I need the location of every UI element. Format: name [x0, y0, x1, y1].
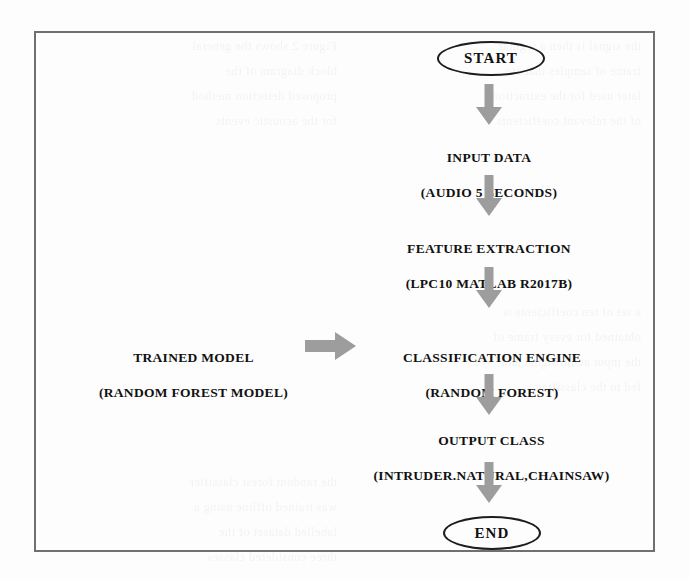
arrow-feature-to-classification: [475, 267, 503, 309]
arrow-input-to-feature: [475, 175, 503, 217]
node-start-label: START: [464, 50, 518, 67]
arrow-start-to-input: [475, 84, 503, 126]
node-classification-engine-line1: CLASSIFICATION ENGINE: [358, 349, 626, 367]
node-output-class-line1: OUTPUT CLASS: [339, 432, 644, 450]
node-trained-model: TRAINED MODEL (RANDOM FOREST MODEL): [86, 331, 301, 420]
arrow-output-to-end: [475, 462, 503, 504]
node-trained-model-line2: (RANDOM FOREST MODEL): [86, 384, 301, 402]
flowchart-page: the signal is then a regular frame of sa…: [0, 0, 689, 580]
node-end-label: END: [475, 525, 510, 542]
node-input-data-line1: INPUT DATA: [359, 149, 619, 167]
node-start: START: [437, 41, 545, 76]
arrow-classification-to-output: [475, 374, 503, 416]
node-end: END: [443, 516, 541, 550]
arrow-trainedmodel-to-classification: [305, 331, 357, 361]
node-trained-model-line1: TRAINED MODEL: [86, 349, 301, 367]
node-feature-extraction-line1: FEATURE EXTRACTION: [349, 240, 629, 258]
